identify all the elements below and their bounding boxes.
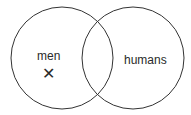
circle-men (11, 7, 113, 109)
set-label-men: men (37, 49, 60, 63)
x-marker-icon: ✕ (42, 64, 55, 83)
set-label-humans: humans (124, 53, 167, 67)
